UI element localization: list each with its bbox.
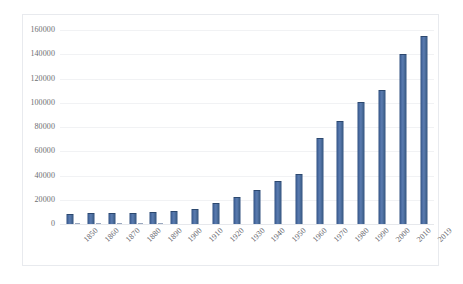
bar-slot: [102, 30, 123, 224]
bar[interactable]: [108, 213, 115, 224]
x-axis-tick: 1970: [332, 226, 350, 244]
x-axis-tick-labels: 1850186018701880189019001910192019301940…: [60, 226, 434, 266]
bar[interactable]: [275, 181, 282, 224]
bar-slot: [247, 30, 268, 224]
bar[interactable]: [150, 212, 157, 224]
bar[interactable]: [316, 138, 323, 224]
x-axis-tick: 1900: [186, 226, 204, 244]
y-axis-tick: 60000: [0, 147, 55, 155]
bar-slot: [330, 30, 351, 224]
x-axis-tick: 1930: [249, 226, 267, 244]
bar[interactable]: [233, 197, 240, 224]
x-axis-tick: 1990: [373, 226, 391, 244]
bar-slot: [185, 30, 206, 224]
bar[interactable]: [399, 54, 406, 224]
y-axis-tick: 40000: [0, 172, 55, 180]
x-axis-tick: 1870: [124, 226, 142, 244]
bar-slot: [309, 30, 330, 224]
bar[interactable]: [358, 102, 365, 224]
bar-slot: [226, 30, 247, 224]
x-axis-tick: 2010: [415, 226, 433, 244]
y-axis-tick: 0: [0, 220, 55, 228]
x-axis-tick: 1880: [145, 226, 163, 244]
bar-shadow-stub: [138, 223, 143, 224]
bar-shadow-stub: [158, 223, 163, 224]
bar[interactable]: [67, 214, 74, 224]
bar[interactable]: [337, 121, 344, 224]
bar[interactable]: [295, 174, 302, 224]
bar-slot: [81, 30, 102, 224]
y-axis-tick: 100000: [0, 99, 55, 107]
bar-slot: [413, 30, 434, 224]
x-axis-tick: 1860: [103, 226, 121, 244]
bar[interactable]: [379, 90, 386, 224]
bar-slot: [205, 30, 226, 224]
bar-slot: [372, 30, 393, 224]
x-axis-tick: 1920: [228, 226, 246, 244]
bar-slot: [392, 30, 413, 224]
bar[interactable]: [192, 209, 199, 224]
bar[interactable]: [129, 213, 136, 224]
bar[interactable]: [212, 203, 219, 224]
x-axis-tick: 1980: [353, 226, 371, 244]
bar[interactable]: [254, 190, 261, 224]
bar-slot: [164, 30, 185, 224]
x-axis-tick: 1910: [207, 226, 225, 244]
x-axis-tick: 1850: [82, 226, 100, 244]
bar[interactable]: [88, 213, 95, 224]
bar-shadow-stub: [96, 223, 101, 224]
x-axis-tick: 1890: [166, 226, 184, 244]
y-axis-tick: 80000: [0, 123, 55, 131]
x-axis-tick: 1960: [311, 226, 329, 244]
bar-slot: [268, 30, 289, 224]
x-axis-tick: 2000: [394, 226, 412, 244]
y-axis-tick: 140000: [0, 50, 55, 58]
y-axis-tick: 120000: [0, 75, 55, 83]
bar-group: [60, 30, 434, 224]
y-axis-tick: 20000: [0, 196, 55, 204]
bar-slot: [143, 30, 164, 224]
bar[interactable]: [420, 36, 427, 224]
bar[interactable]: [171, 211, 178, 224]
bar-slot: [351, 30, 372, 224]
gridline: [60, 224, 434, 225]
bar-chart-figure: 1600001400001200001000008000060000400002…: [0, 0, 463, 284]
bar-shadow-stub: [75, 223, 80, 224]
bar-slot: [289, 30, 310, 224]
bar-shadow-stub: [117, 223, 122, 224]
bar-slot: [122, 30, 143, 224]
bar-slot: [60, 30, 81, 224]
x-axis-tick: 1940: [269, 226, 287, 244]
x-axis-tick: 1950: [290, 226, 308, 244]
y-axis-tick: 160000: [0, 26, 55, 34]
